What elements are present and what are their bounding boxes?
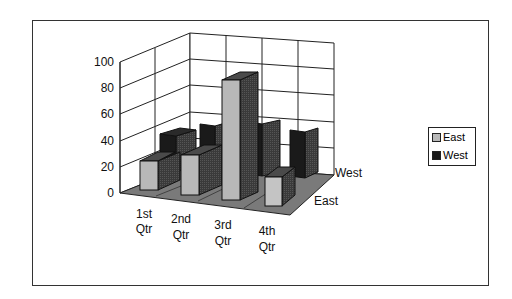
category-label: 2nd [171, 212, 191, 226]
legend-swatch-west [432, 151, 441, 160]
depth-label-west: West [335, 166, 363, 180]
y-tick-40: 40 [101, 134, 115, 148]
y-tick-80: 80 [101, 81, 115, 95]
depth-label-east: East [314, 194, 339, 208]
legend-item-west[interactable]: West [429, 146, 475, 164]
legend-label: West [443, 149, 468, 161]
category-label: Qtr [173, 228, 190, 242]
legend-item-east[interactable]: East [429, 128, 475, 146]
y-axis: 100 80 60 40 20 0 [94, 55, 120, 200]
y-tick-100: 100 [94, 55, 114, 69]
y-tick-60: 60 [101, 107, 115, 121]
category-label: 4th [259, 224, 276, 238]
x-axis-labels: 1st Qtr 2nd Qtr 3rd Qtr 4th Qtr [136, 207, 276, 254]
category-label: Qtr [136, 222, 153, 236]
category-label: Qtr [215, 234, 232, 248]
legend-swatch-east [432, 133, 441, 142]
category-label: 3rd [214, 218, 231, 232]
y-tick-20: 20 [101, 160, 115, 174]
legend[interactable]: East West [428, 127, 476, 166]
category-label: 1st [136, 207, 153, 221]
category-label: Qtr [259, 240, 276, 254]
legend-label: East [443, 131, 465, 143]
y-tick-0: 0 [107, 186, 114, 200]
